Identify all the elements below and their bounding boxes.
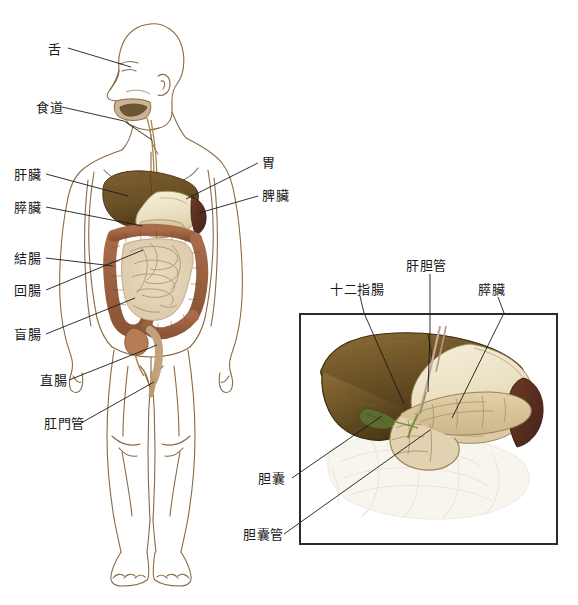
- digestive-system-illustration: [0, 0, 578, 605]
- spleen-organ: [191, 197, 206, 235]
- body-label-spleen: 脾臟: [262, 189, 289, 203]
- appendix-shape: [135, 354, 144, 376]
- inset-label-cystic-duct: 胆囊管: [243, 528, 284, 542]
- body-label-liver: 肝臟: [14, 168, 41, 182]
- body-label-esophagus: 食道: [36, 101, 63, 115]
- body-label-pancreas: 膵臟: [14, 201, 41, 215]
- cecum-organ: [125, 328, 148, 376]
- inset-label-gallbladder: 胆囊: [258, 472, 285, 486]
- body-label-tongue: 舌: [48, 43, 62, 57]
- body-label-cecum: 盲腸: [14, 328, 41, 342]
- inset-illustration: [301, 315, 556, 543]
- inset-label-pancreas: 膵臟: [478, 283, 505, 297]
- inset-label-duodenum: 十二指腸: [330, 283, 384, 297]
- body-label-colon: 結腸: [14, 252, 41, 266]
- inset-label-bile-duct: 肝胆管: [406, 259, 447, 273]
- body-label-rectum: 直腸: [40, 374, 67, 388]
- body-label-anal-canal: 肛門管: [44, 417, 85, 431]
- small-intestine-organ: [121, 239, 193, 321]
- oral-cavity-group: [114, 90, 151, 120]
- anatomy-diagram-page: 舌 食道 肝臟 膵臟 結腸 回腸 盲腸 直腸 肛門管 胃 脾臟 十二指腸 肝胆管…: [0, 0, 578, 605]
- body-label-ileum: 回腸: [14, 284, 41, 298]
- body-label-stomach: 胃: [262, 156, 276, 170]
